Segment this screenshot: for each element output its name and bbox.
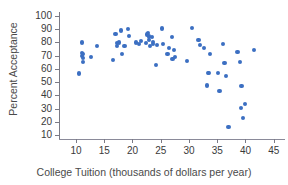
- data-point: [221, 42, 225, 46]
- y-tick-label-wrap: 10: [26, 130, 52, 140]
- y-tick-label-wrap: 40: [26, 90, 52, 100]
- data-point: [167, 46, 171, 50]
- data-point: [80, 40, 84, 44]
- y-tick-label: 10: [30, 130, 52, 140]
- data-point: [243, 102, 247, 106]
- x-axis-line: [59, 139, 285, 140]
- y-tick-label: 90: [30, 24, 52, 34]
- y-tick-label: 30: [30, 104, 52, 114]
- y-tick-label-wrap: 30: [26, 104, 52, 114]
- y-tick-label: 50: [30, 77, 52, 87]
- x-tick-label: 35: [205, 146, 229, 156]
- y-tick-label: 60: [30, 64, 52, 74]
- data-point: [119, 28, 123, 32]
- x-tick-label: 25: [149, 146, 173, 156]
- data-point: [239, 84, 243, 88]
- x-tick-label: 40: [233, 146, 257, 156]
- x-tick-label: 15: [92, 146, 116, 156]
- data-point: [150, 35, 154, 39]
- data-point: [172, 48, 176, 52]
- data-point: [127, 34, 131, 38]
- x-tick-mark: [76, 139, 77, 143]
- data-point: [196, 38, 200, 42]
- x-tick-mark: [274, 139, 275, 143]
- y-tick-label: 70: [30, 51, 52, 61]
- y-tick-label: 100: [30, 11, 52, 21]
- data-point: [224, 74, 228, 78]
- x-tick-label: 20: [120, 146, 144, 156]
- y-tick-label: 80: [30, 37, 52, 47]
- data-point: [117, 40, 121, 44]
- data-point: [160, 26, 164, 30]
- data-point: [216, 71, 220, 75]
- data-point: [95, 44, 99, 48]
- data-point: [217, 89, 221, 93]
- x-tick-mark: [104, 139, 105, 143]
- x-axis-title: College Tuition (thousands of dollars pe…: [0, 166, 288, 178]
- y-tick-label-wrap: 100: [26, 11, 52, 21]
- data-point: [81, 60, 85, 64]
- y-tick-label-wrap: 90: [26, 24, 52, 34]
- x-tick-mark: [189, 139, 190, 143]
- y-tick-label-wrap: 60: [26, 64, 52, 74]
- x-tick-label: 10: [64, 146, 88, 156]
- data-point: [165, 52, 169, 56]
- x-tick-mark: [217, 139, 218, 143]
- plot-area: [59, 12, 285, 139]
- x-tick-mark: [132, 139, 133, 143]
- data-point: [239, 106, 243, 110]
- y-tick-label: 40: [30, 90, 52, 100]
- y-tick-label-wrap: 70: [26, 51, 52, 61]
- data-point: [205, 83, 209, 87]
- y-tick-label-wrap: 50: [26, 77, 52, 87]
- scatter-plot-figure: Percent Acceptance 102030405060708090100…: [0, 0, 288, 185]
- y-axis-title: Percent Acceptance: [7, 9, 19, 129]
- data-point: [238, 60, 242, 64]
- y-tick-label: 20: [30, 117, 52, 127]
- data-point: [89, 55, 93, 59]
- y-tick-label-wrap: 80: [26, 37, 52, 47]
- x-tick-mark: [245, 139, 246, 143]
- x-tick-mark: [161, 139, 162, 143]
- data-point: [226, 125, 230, 129]
- data-point: [190, 26, 194, 30]
- data-point: [202, 46, 206, 50]
- y-tick-label-wrap: 20: [26, 117, 52, 127]
- data-point: [185, 59, 189, 63]
- data-point: [161, 42, 165, 46]
- data-point: [208, 52, 212, 56]
- x-tick-label: 30: [177, 146, 201, 156]
- data-point: [222, 61, 226, 65]
- data-point: [113, 32, 117, 36]
- data-point: [155, 43, 159, 47]
- x-tick-label: 45: [262, 146, 286, 156]
- data-point: [154, 63, 158, 67]
